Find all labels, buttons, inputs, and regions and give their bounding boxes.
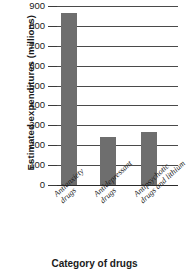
tick-mark — [48, 145, 57, 146]
tick-mark — [48, 46, 57, 47]
y-axis-tick-label: 900 — [29, 0, 45, 11]
y-axis-tick-label: 300 — [29, 119, 45, 130]
tick-mark — [48, 86, 57, 87]
bar — [61, 13, 77, 185]
y-axis-title: Estimated expenditures (millions) — [26, 8, 36, 178]
tick-mark — [48, 66, 57, 67]
bar-chart: Estimated expenditures (millions) 900800… — [0, 0, 189, 269]
x-axis-title: Category of drugs — [0, 258, 189, 269]
tick-mark — [48, 26, 57, 27]
y-axis-tick: 300 — [2, 125, 57, 126]
y-axis-tick: 200 — [2, 145, 57, 146]
plot-area: 9008007006005004003002001000 — [57, 6, 178, 185]
y-axis-tick: 0 — [2, 185, 57, 186]
tick-mark — [48, 6, 57, 7]
y-axis-tick: 100 — [2, 165, 57, 166]
tick-mark — [48, 125, 57, 126]
y-axis-tick: 700 — [2, 46, 57, 47]
y-axis-tick: 500 — [2, 86, 57, 87]
y-axis-tick-label: 700 — [29, 40, 45, 51]
y-axis-tick: 600 — [2, 66, 57, 67]
tick-mark — [48, 185, 57, 186]
y-axis-tick-label: 0 — [40, 179, 45, 190]
y-axis-tick-label: 400 — [29, 99, 45, 110]
tick-mark — [48, 165, 57, 166]
y-axis-tick: 900 — [2, 6, 57, 7]
y-axis-tick-label: 600 — [29, 60, 45, 71]
gridline — [57, 6, 178, 7]
y-axis-tick: 400 — [2, 105, 57, 106]
y-axis-tick: 800 — [2, 26, 57, 27]
y-axis-tick-label: 200 — [29, 139, 45, 150]
tick-mark — [48, 105, 57, 106]
y-axis-tick-label: 500 — [29, 80, 45, 91]
y-axis-tick-label: 800 — [29, 20, 45, 31]
y-axis-tick-label: 100 — [29, 159, 45, 170]
